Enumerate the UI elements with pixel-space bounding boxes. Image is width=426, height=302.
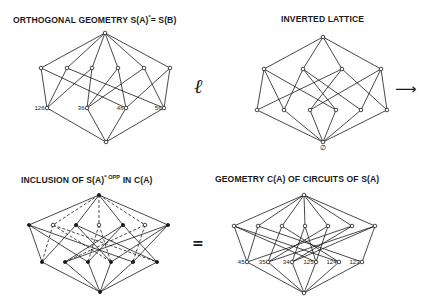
lattice-edge [323,37,381,69]
dashed-edge [53,225,157,262]
lattice-node [321,35,325,39]
lattice-node [379,67,383,71]
lattice-edge [133,225,168,262]
lattice-node [321,140,325,144]
lattice-edge [47,108,106,142]
lattice-node [155,260,158,263]
lattice-node [301,67,305,71]
lattice-node [385,108,389,112]
lattice-node [131,260,134,263]
node-label: 34 [283,259,290,265]
lattice-edge [29,225,42,262]
lattice-edge [268,226,375,262]
lattice-node [280,224,284,228]
lattice-edge [99,195,168,225]
lattice-node [350,224,354,228]
dashed-edge [53,195,99,225]
lattice-edge [126,68,170,108]
lattice-edge [247,262,304,293]
lattice-node [27,223,30,226]
lattice-node [302,291,306,295]
lattice-node [40,260,43,263]
lattice-edge [111,225,168,262]
lattice-edge [106,108,164,142]
lattice-edge [65,225,123,262]
lattice-node [255,108,259,112]
lattice-edge [304,195,305,226]
lattice-node [360,260,364,264]
lattice-edge [342,69,387,110]
lattice-edge [310,110,323,142]
lattice-node [142,66,146,70]
lattice-node [262,67,266,71]
lattice-node [334,108,338,112]
lattice-edge [42,262,100,292]
node-label: 36 [78,105,85,111]
lattice-node [266,260,270,264]
lattice-node [302,193,306,197]
lattice-node [373,224,377,228]
lattice-edge [257,69,264,110]
lattice-edge [87,68,144,108]
lattice-inclusion-lattice [27,193,169,293]
lattice-edge [310,69,381,110]
lattice-edge [303,69,336,110]
lattice-edge [362,226,375,262]
lattice-edge [105,33,118,68]
lattice-edge [41,68,47,108]
lattice-edge [118,68,126,108]
lattice-diagrams: 126364656453534125124123 [0,0,426,302]
lattice-inverted-lattice [255,35,389,144]
lattice-edge [292,226,375,262]
lattice-node [116,66,120,70]
lattice-edge [303,69,361,110]
lattice-edge [381,69,387,110]
lattice-edge [106,108,126,142]
node-label: 123 [349,259,360,265]
lattice-edge [268,262,304,293]
lattice-node [337,260,341,264]
node-label: 124 [326,259,337,265]
lattice-node [74,223,77,226]
lattice-node [97,223,101,227]
lattice-edge [234,226,339,262]
lattice-node [98,290,101,293]
lattice-edge [304,262,316,293]
lattice-node [85,106,89,110]
lattice-edge [99,195,123,225]
lattice-node [90,66,94,70]
dashed-edge [99,195,145,225]
lattice-node [124,106,128,110]
lattice-node [166,223,169,226]
lattice-node [232,224,236,228]
lattice-node [63,260,66,263]
node-label: 126 [34,105,45,111]
lattice-edge [264,37,323,69]
lattice-edge [304,262,362,293]
lattice-node [121,223,124,226]
lattice-orthogonal-geometry: 126364656 [34,31,171,144]
lattice-node [308,108,312,112]
lattice-edge [88,262,100,292]
lattice-node [65,66,69,70]
lattice-node [168,66,172,70]
lattice-node [359,108,363,112]
lattice-edge [92,33,105,68]
lattice-edge [323,110,336,142]
lattice-edge [304,195,375,226]
lattice-edge [303,37,323,69]
lattice-node [51,223,55,227]
lattice-node [104,140,108,144]
lattice-edge [29,195,99,225]
lattice-edge [105,33,170,68]
lattice-edge [47,68,67,108]
node-label: 56 [155,105,162,111]
lattice-node [245,260,249,264]
lattice-edge [234,195,304,226]
node-label: 46 [117,105,124,111]
lattice-edge [305,226,316,262]
lattice-node [143,223,147,227]
lattice-node [326,224,330,228]
lattice-edge [144,68,164,108]
lattice-edge [304,195,352,226]
